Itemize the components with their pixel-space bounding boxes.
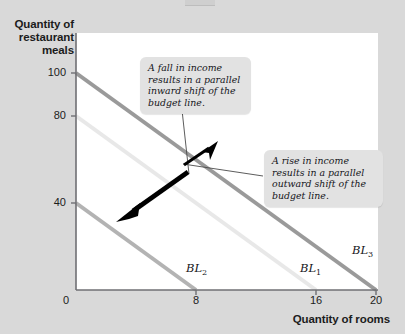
callout-rise-in-income: A rise in income results in a parallel o… [264, 150, 383, 207]
x-tick-label-20: 20 [363, 294, 389, 306]
x-tick-label-8: 8 [183, 294, 209, 306]
callout-fall-in-income: A fall in income results in a parallel i… [140, 57, 251, 114]
budget-line-figure: Quantity of restaurant meals Quantity of… [0, 0, 405, 334]
y-tick-label-100: 100 [40, 66, 66, 78]
origin-label: 0 [60, 294, 72, 306]
curve-label-bl2-sub: 2 [202, 268, 207, 277]
curve-label-bl1: BL1 [300, 261, 321, 277]
curve-label-bl1-sub: 1 [316, 268, 321, 277]
y-tick-label-80: 80 [40, 109, 66, 121]
x-axis-title: Quantity of rooms [250, 313, 390, 326]
x-tick-label-16: 16 [303, 294, 329, 306]
curve-label-bl3-sub: 3 [368, 250, 373, 259]
curve-label-bl3-base: BL [352, 243, 368, 257]
curve-label-bl3: BL3 [352, 243, 373, 259]
curve-label-bl2: BL2 [186, 261, 207, 277]
y-axis-title: Quantity of restaurant meals [12, 18, 74, 57]
curve-label-bl2-base: BL [186, 261, 202, 275]
y-tick-label-40: 40 [40, 196, 66, 208]
curve-label-bl1-base: BL [300, 261, 316, 275]
